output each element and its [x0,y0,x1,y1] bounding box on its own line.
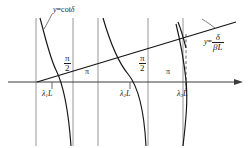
label-linear-denominator: βL [212,43,224,52]
leader-cot-label [44,14,52,29]
root-2-tail: L [126,89,130,98]
figure-cot-intersection-plot: y=cotδ y= δ βL π 2 π π 2 π λ1L λ2L λ3L [0,0,249,148]
pi-half-2-denominator: 2 [139,64,146,73]
label-linear-fraction: δ βL [212,33,224,52]
leader-line-label [202,19,215,28]
tick-label-pi-half-1: π 2 [64,54,71,73]
label-cot-curve: y=cotδ [53,6,75,14]
root-ticks [52,82,186,89]
pi-half-1-fraction: π 2 [64,54,71,73]
tick-label-pi-half-2: π 2 [139,54,146,73]
tick-label-pi-1: π [85,68,89,76]
root-label-2: λ2L [120,90,130,99]
root-label-1: λ1L [42,90,52,99]
linear-curve [37,22,236,82]
label-cot-rhs: cot [61,5,71,14]
label-linear-curve: y= δ βL [204,33,224,52]
root-1-tail: L [48,89,52,98]
leader-lines [44,14,215,29]
x-axis-arrowhead [234,79,243,85]
cot-branch-3 [176,24,187,146]
cot-branch-3-upper [178,22,186,48]
label-cot-arg: δ [71,5,75,14]
tick-label-pi-2: π [166,68,170,76]
root-label-3: λ3L [177,90,187,99]
pi-half-2-fraction: π 2 [139,54,146,73]
plot-canvas [0,0,249,148]
pi-half-1-denominator: 2 [64,64,71,73]
root-3-tail: L [183,89,187,98]
